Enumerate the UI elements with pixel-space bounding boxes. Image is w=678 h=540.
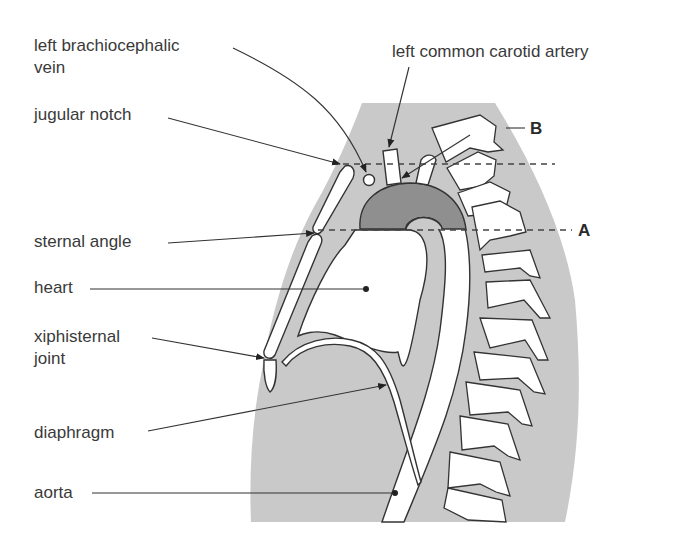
brachiocephalic-trunk	[383, 149, 401, 185]
label-jugular-notch: jugular notch	[33, 105, 131, 124]
thorax-sagittal-diagram: B A left brachiocephalic vein jugular no…	[0, 0, 678, 540]
plane-b-label: B	[530, 119, 542, 138]
label-left-brachiocephalic-vein-line1: left brachiocephalic	[34, 36, 180, 55]
leader-sternal-angle	[168, 233, 314, 243]
plane-a-label: A	[578, 221, 590, 240]
leader-jugular-notch	[168, 118, 340, 164]
label-sternal-angle: sternal angle	[34, 232, 131, 251]
aorta-pointer-dot	[392, 490, 398, 496]
label-xiphisternal-joint-line2: joint	[33, 349, 65, 368]
label-heart: heart	[34, 278, 73, 297]
label-diaphragm: diaphragm	[34, 423, 114, 442]
leader-xiphisternal-joint	[152, 338, 264, 358]
heart-pointer-dot	[363, 286, 369, 292]
label-left-brachiocephalic-vein-line2: vein	[34, 58, 65, 77]
brachiocephalic-vein-circle	[364, 175, 375, 186]
label-xiphisternal-joint-line1: xiphisternal	[34, 327, 120, 346]
label-left-common-carotid-artery: left common carotid artery	[392, 42, 589, 61]
label-aorta: aorta	[34, 483, 73, 502]
